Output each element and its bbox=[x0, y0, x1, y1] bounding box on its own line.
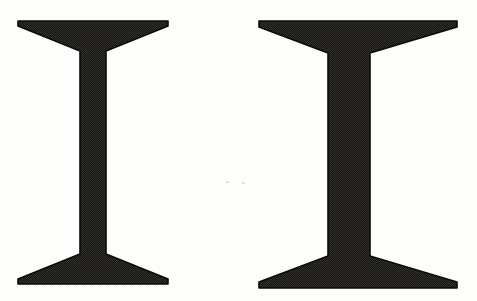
i-beam-right-thick-web bbox=[259, 21, 457, 288]
i-beam-left-thin-web bbox=[18, 21, 168, 284]
scan-noise-speck bbox=[226, 181, 229, 183]
scan-noise-speck bbox=[242, 182, 245, 184]
i-beam-cross-sections-figure bbox=[0, 0, 477, 301]
scanned-figure-page bbox=[0, 0, 477, 301]
